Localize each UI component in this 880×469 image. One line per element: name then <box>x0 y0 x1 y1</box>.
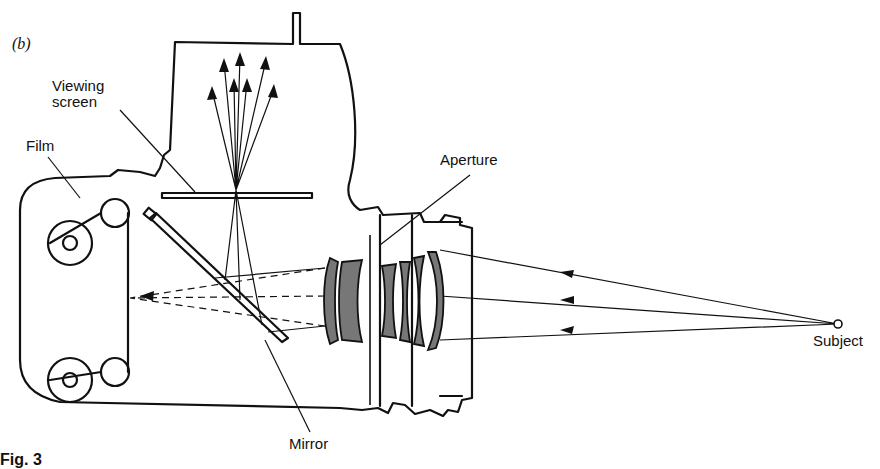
label-viewing-screen: Viewing screen <box>52 78 104 110</box>
label-aperture: Aperture <box>440 152 498 168</box>
lens-element-6 <box>428 252 444 350</box>
film-spool-top-inner <box>63 236 77 250</box>
figure-caption: Fig. 3 <box>0 452 42 469</box>
label-film: Film <box>26 138 54 154</box>
label-mirror: Mirror <box>289 436 328 452</box>
film-roller-top <box>101 199 129 227</box>
lens-element-2 <box>339 260 362 342</box>
lens-element-3 <box>382 264 396 338</box>
film-strip <box>50 213 128 380</box>
leader-aperture <box>380 175 470 245</box>
lens-element-5 <box>414 256 424 346</box>
camera-body-outline <box>20 13 472 416</box>
subject-point <box>834 320 842 328</box>
leader-mirror <box>265 340 310 432</box>
film-roller-bottom <box>101 358 129 386</box>
lens-element-1 <box>324 258 338 344</box>
film-spool-top <box>48 221 92 265</box>
leader-viewing-screen <box>120 110 195 192</box>
lens-element-4 <box>400 262 410 342</box>
label-subject: Subject <box>813 333 863 349</box>
